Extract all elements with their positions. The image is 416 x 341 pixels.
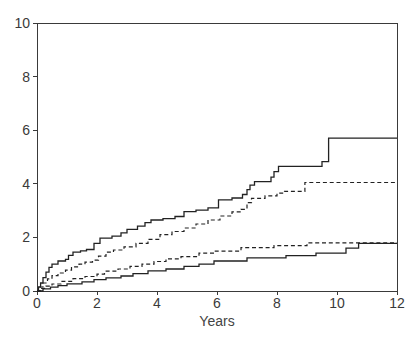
curve-upper-solid-curve — [37, 138, 397, 291]
y-tick-label: 6 — [22, 122, 30, 138]
chart-figure: 1086420121086420 Years — [0, 0, 416, 341]
chart-canvas: 1086420121086420 Years — [0, 0, 416, 341]
x-tick-label: 0 — [33, 295, 41, 311]
x-tick-label: 10 — [329, 295, 345, 311]
y-tick-label: 8 — [22, 69, 30, 85]
y-tick-label: 2 — [22, 229, 30, 245]
curve-upper-dashed-curve — [37, 183, 397, 292]
x-axis-title: Years — [199, 313, 234, 329]
x-tick-label: 12 — [389, 295, 405, 311]
y-tick-label: 0 — [22, 283, 30, 299]
x-tick-label: 4 — [153, 295, 161, 311]
x-tick-label: 6 — [213, 295, 221, 311]
x-tick-label: 8 — [273, 295, 281, 311]
x-tick-label: 2 — [93, 295, 101, 311]
y-tick-label: 4 — [22, 176, 30, 192]
y-tick-label: 10 — [14, 15, 30, 31]
curve-lower-solid-curve — [37, 243, 397, 291]
